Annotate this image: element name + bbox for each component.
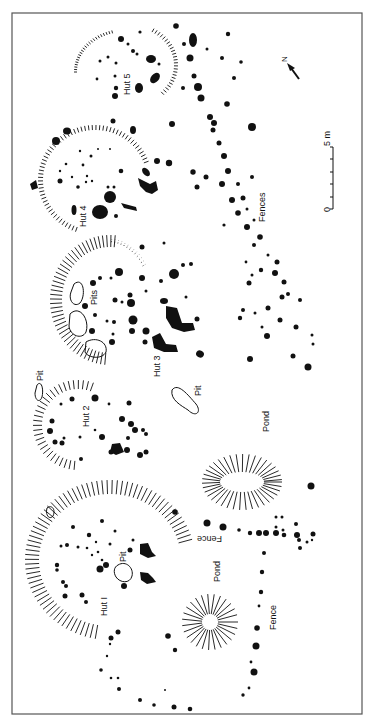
label-pits: Pits [89, 289, 99, 305]
label-fences: Fences [257, 192, 267, 222]
pit-hut2 [35, 383, 43, 400]
label-pond-small: Pond [212, 561, 222, 582]
hut-4-postholes [30, 119, 175, 220]
fence-lower-postholes [99, 551, 266, 711]
label-pit-center: Pit [193, 385, 203, 396]
label-fence-lower: Fence [268, 605, 278, 630]
site-plan: Hut 5 Hut 4 Fences Pits Hut 3 Pit Pit Hu… [0, 0, 370, 723]
label-pit-hut1: Pit [118, 551, 128, 562]
fence-postholes-right [190, 114, 314, 371]
hut-2-postholes [47, 395, 149, 462]
label-hut-1: Hut I [99, 597, 109, 616]
pit-hut1 [114, 563, 132, 581]
label-pond-large: Pond [261, 411, 271, 432]
hut-2 [33, 380, 198, 470]
pit-2 [69, 311, 87, 336]
hut-3 [50, 235, 205, 365]
pond-large [202, 454, 282, 510]
hut-1-postholes [55, 519, 156, 604]
hut-5-postholes [96, 23, 243, 107]
label-hut-2: Hut 2 [81, 405, 91, 427]
label-hut-3: Hut 3 [152, 355, 162, 377]
pond-small [182, 594, 238, 650]
label-pit-hut2: Pit [35, 370, 45, 381]
label-fence-upper: Fence [197, 534, 222, 544]
plan-frame [12, 13, 362, 714]
hut-5 [74, 23, 243, 107]
fence-upper-postholes [172, 483, 315, 551]
north-arrow-icon: N [280, 56, 299, 79]
hut-4 [30, 119, 175, 232]
scale-end-label: 5 m [322, 131, 332, 146]
scale-start-label: 0 [322, 207, 332, 212]
pit-1 [70, 282, 83, 304]
north-label: N [280, 56, 289, 62]
label-hut-4: Hut 4 [78, 205, 88, 227]
label-hut-5: Hut 5 [122, 73, 132, 95]
scale-bar: 0 5 m [322, 131, 333, 212]
pit-3 [85, 340, 106, 358]
